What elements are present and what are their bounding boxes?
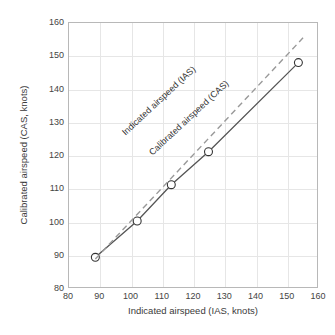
data-point-marker xyxy=(133,217,141,225)
x-tick-80: 80 xyxy=(63,291,73,302)
data-point-marker xyxy=(91,253,99,261)
series-line-0 xyxy=(95,63,298,258)
x-tick-130: 130 xyxy=(217,291,232,302)
chart-canvas xyxy=(69,23,317,287)
x-tick-100: 100 xyxy=(123,291,138,302)
y-tick-90: 90 xyxy=(54,249,64,260)
data-point-marker xyxy=(294,59,302,67)
x-tick-110: 110 xyxy=(155,291,169,302)
x-tick-90: 90 xyxy=(94,291,104,302)
x-tick-160: 160 xyxy=(310,291,325,302)
data-point-marker xyxy=(167,181,175,189)
y-tick-150: 150 xyxy=(49,50,64,61)
y-tick-100: 100 xyxy=(49,216,64,227)
y-tick-160: 160 xyxy=(49,17,64,28)
plot-area xyxy=(68,22,318,288)
y-tick-140: 140 xyxy=(49,83,64,94)
x-tick-120: 120 xyxy=(185,291,200,302)
y-axis-title: Calibrated airspeed (CAS, knots) xyxy=(18,22,32,288)
series-line-1 xyxy=(95,38,303,259)
y-tick-80: 80 xyxy=(54,283,64,294)
y-tick-130: 130 xyxy=(49,116,64,127)
data-point-marker xyxy=(205,148,213,156)
x-axis-title: Indicated airspeed (IAS, knots) xyxy=(68,305,318,316)
x-tick-140: 140 xyxy=(248,291,263,302)
chart-figure: 8090100110120130140150160 80901001101201… xyxy=(0,0,335,335)
y-tick-110: 110 xyxy=(50,183,64,194)
y-tick-120: 120 xyxy=(49,150,64,161)
x-tick-150: 150 xyxy=(279,291,294,302)
